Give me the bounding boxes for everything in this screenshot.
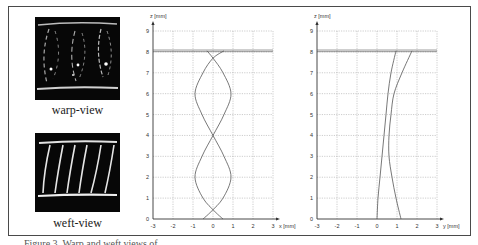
chart-xz-projection: -3-2-101230123456789x [mm]z [mm]: [135, 0, 305, 236]
x-tick-label: 1: [231, 223, 234, 229]
y-tick-label: 7: [310, 70, 313, 76]
y-tick-label: 9: [310, 28, 313, 34]
y-axis-label: z [mm]: [150, 13, 167, 19]
x-tick-label: -3: [151, 223, 156, 229]
weft-view-label: weft-view: [30, 216, 125, 231]
y-tick-label: 6: [146, 91, 149, 97]
y-tick-label: 2: [310, 174, 313, 180]
x-tick-label: 2: [415, 223, 418, 229]
figure-caption: Figure 3. Warp and weft views of ...: [24, 239, 168, 245]
y-tick-label: 7: [146, 70, 149, 76]
x-tick-label: -3: [315, 223, 320, 229]
y-tick-label: 1: [146, 195, 149, 201]
y-tick-label: 2: [146, 174, 149, 180]
x-tick-label: -1: [191, 223, 196, 229]
y-tick-label: 6: [310, 91, 313, 97]
weft-view-image: [35, 133, 120, 212]
chart-svg: -3-2-101230123456789y [mm]z [mm]: [299, 0, 469, 232]
x-axis-label: y [mm]: [443, 223, 460, 229]
chart-yz-projection: -3-2-101230123456789y [mm]z [mm]: [299, 0, 469, 236]
warp-view-label: warp-view: [30, 103, 125, 118]
chart-svg: -3-2-101230123456789x [mm]z [mm]: [135, 0, 305, 232]
y-tick-label: 9: [146, 28, 149, 34]
y-tick-label: 4: [310, 132, 313, 138]
y-tick-label: 0: [310, 216, 313, 222]
x-tick-label: 2: [251, 223, 254, 229]
x-tick-label: -2: [171, 223, 176, 229]
y-tick-label: 0: [146, 216, 149, 222]
y-tick-label: 3: [310, 153, 313, 159]
x-tick-label: -1: [355, 223, 360, 229]
data-series-line: [389, 51, 412, 219]
x-axis-label: x [mm]: [279, 223, 296, 229]
y-tick-label: 8: [146, 49, 149, 55]
x-tick-label: 3: [271, 223, 274, 229]
x-tick-label: 1: [395, 223, 398, 229]
x-tick-label: 0: [211, 223, 214, 229]
y-tick-label: 4: [146, 132, 149, 138]
y-tick-label: 1: [310, 195, 313, 201]
x-tick-label: -2: [335, 223, 340, 229]
y-tick-label: 5: [310, 112, 313, 118]
x-tick-label: 0: [375, 223, 378, 229]
y-tick-label: 8: [310, 49, 313, 55]
y-tick-label: 5: [146, 112, 149, 118]
x-tick-label: 3: [435, 223, 438, 229]
warp-view-image: [35, 17, 120, 100]
y-axis-label: z [mm]: [314, 13, 331, 19]
data-series-line: [377, 51, 396, 219]
y-tick-label: 3: [146, 153, 149, 159]
